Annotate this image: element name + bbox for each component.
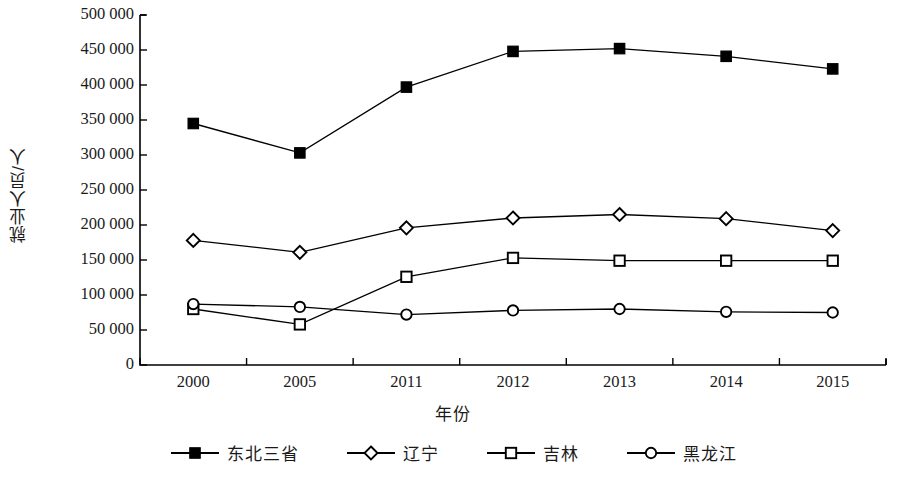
data-point-filled-square	[295, 148, 305, 158]
legend-marker-filled-square-icon	[169, 444, 221, 462]
data-point-open-diamond	[613, 208, 626, 221]
legend-item[interactable]: 黑龙江	[625, 440, 737, 465]
data-point-open-circle	[295, 302, 305, 312]
data-point-filled-square	[614, 43, 624, 53]
data-point-filled-square	[828, 64, 838, 74]
data-point-open-square	[401, 272, 411, 282]
x-tick-label: 2000	[140, 372, 247, 400]
data-point-open-square	[508, 253, 518, 263]
data-point-open-diamond	[507, 212, 520, 225]
data-point-open-circle	[614, 304, 624, 314]
legend-marker-open-diamond-icon	[345, 444, 397, 462]
data-point-open-square	[614, 256, 624, 266]
line-chart: 就业人员/人 050 000100 000150 000200 000250 0…	[0, 0, 906, 494]
data-point-filled-square	[721, 51, 731, 61]
data-point-filled-square	[401, 82, 411, 92]
data-point-open-diamond	[187, 234, 200, 247]
x-axis-tick-labels: 2000200520112012201320142015	[140, 372, 886, 400]
series-1	[188, 43, 838, 158]
legend-item[interactable]: 吉林	[485, 440, 579, 465]
legend-label: 东北三省	[227, 440, 299, 465]
series-2	[187, 208, 839, 259]
data-point-open-square	[828, 256, 838, 266]
data-point-filled-square	[188, 118, 198, 128]
data-point-open-circle	[401, 309, 411, 319]
legend-label: 辽宁	[403, 440, 439, 465]
x-tick-label: 2014	[673, 372, 780, 400]
x-tick-label: 2011	[353, 372, 460, 400]
x-axis-title: 年份	[0, 400, 906, 425]
data-point-filled-square	[190, 447, 200, 457]
data-point-open-diamond	[826, 224, 839, 237]
data-point-filled-square	[508, 46, 518, 56]
series-3	[188, 253, 838, 330]
series-line	[193, 49, 832, 153]
legend-label: 黑龙江	[683, 440, 737, 465]
x-axis-title-text: 年份	[435, 405, 471, 424]
x-tick-label: 2013	[566, 372, 673, 400]
data-point-open-diamond	[720, 212, 733, 225]
x-tick-label: 2005	[247, 372, 354, 400]
legend-marker-open-circle-icon	[625, 444, 677, 462]
legend-item[interactable]: 辽宁	[345, 440, 439, 465]
data-point-open-circle	[508, 305, 518, 315]
data-point-open-circle	[188, 299, 198, 309]
data-point-open-diamond	[293, 246, 306, 259]
legend-item[interactable]: 东北三省	[169, 440, 299, 465]
legend-marker-open-square-icon	[485, 444, 537, 462]
data-point-open-diamond	[400, 221, 413, 234]
x-tick-label: 2015	[779, 372, 886, 400]
series-4	[188, 299, 838, 320]
data-point-open-square	[506, 447, 516, 457]
data-point-open-circle	[721, 307, 731, 317]
data-point-open-circle	[646, 447, 656, 457]
data-point-open-circle	[828, 307, 838, 317]
x-tick-label: 2012	[460, 372, 567, 400]
data-point-open-square	[295, 319, 305, 329]
data-point-open-diamond	[365, 446, 378, 459]
data-point-open-square	[721, 256, 731, 266]
legend-label: 吉林	[543, 440, 579, 465]
chart-legend: 东北三省辽宁吉林黑龙江	[0, 440, 906, 465]
